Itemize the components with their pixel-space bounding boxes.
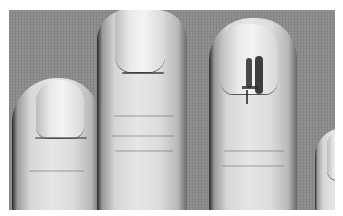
nail-lesion [242,86,258,89]
skin-crease [112,135,174,137]
fingernail-4 [327,132,335,180]
skin-crease [222,165,284,167]
skin-crease [29,170,84,172]
skin-crease [114,115,174,117]
skin-crease [115,150,173,152]
fingernail-1 [36,80,84,138]
cuticle-1 [35,137,87,139]
nail-lesion [246,58,252,88]
photograph [9,10,335,210]
skin-crease [224,150,284,152]
nail-lesion [246,90,248,104]
cuticle-2 [122,72,164,74]
fingernail-2 [115,10,165,72]
